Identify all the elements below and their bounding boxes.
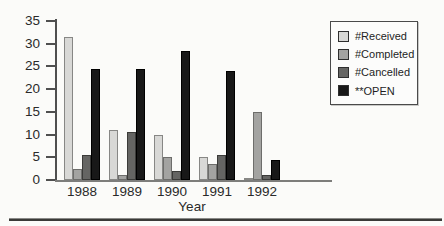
- y-tick-mark-10: [46, 134, 55, 136]
- bar-1989-2: [118, 175, 127, 180]
- y-tick-mark-20: [46, 88, 55, 90]
- x-tick-label-1992: 1992: [240, 184, 284, 199]
- legend-swatch-3: [338, 67, 349, 78]
- bar-1990-1: [154, 135, 163, 180]
- y-tick-mark-5: [46, 156, 55, 158]
- legend-swatch-4: [338, 85, 349, 96]
- y-axis-line: [55, 19, 57, 181]
- y-tick-mark-15: [46, 111, 55, 113]
- legend-swatch-1: [338, 31, 349, 42]
- bar-1990-3: [172, 171, 181, 180]
- y-tick-label-0: 0: [8, 173, 40, 187]
- bar-1991-2: [208, 164, 217, 180]
- bar-1991-1: [199, 157, 208, 180]
- legend-swatch-2: [338, 49, 349, 60]
- legend-item-1: #Received: [338, 27, 410, 45]
- bar-1988-1: [64, 37, 73, 180]
- legend-item-4: **OPEN: [338, 82, 410, 100]
- y-tick-label-10: 10: [8, 128, 40, 142]
- legend-item-3: #Cancelled: [338, 63, 410, 81]
- x-tick-label-1990: 1990: [150, 184, 194, 199]
- y-tick-label-35: 35: [8, 14, 40, 28]
- bar-1990-2: [163, 157, 172, 180]
- y-tick-mark-25: [46, 65, 55, 67]
- bar-1992-2: [253, 112, 262, 180]
- bar-1989-4: [136, 69, 145, 180]
- bar-1992-3: [262, 175, 271, 180]
- x-tick-label-1988: 1988: [60, 184, 104, 199]
- bar-1990-4: [181, 51, 190, 180]
- y-tick-mark-35: [46, 20, 55, 22]
- legend-item-2: #Completed: [338, 45, 410, 63]
- bar-1988-4: [91, 69, 100, 180]
- y-tick-label-20: 20: [8, 82, 40, 96]
- x-axis-title: Year: [162, 199, 222, 214]
- bar-1988-3: [82, 155, 91, 180]
- y-tick-label-25: 25: [8, 59, 40, 73]
- bar-1992-4: [271, 160, 280, 180]
- x-axis-line: [55, 180, 332, 182]
- legend-label-2: #Completed: [355, 48, 414, 60]
- legend-label-3: #Cancelled: [355, 66, 410, 78]
- y-tick-label-15: 15: [8, 105, 40, 119]
- bar-1988-2: [73, 169, 82, 180]
- bottom-rule-line: [9, 218, 442, 221]
- legend-label-1: #Received: [355, 30, 407, 42]
- x-tick-label-1991: 1991: [195, 184, 239, 199]
- x-tick-label-1989: 1989: [105, 184, 149, 199]
- bar-1989-3: [127, 132, 136, 180]
- legend: #Received#Completed#Cancelled**OPEN: [330, 21, 418, 105]
- y-tick-label-30: 30: [8, 37, 40, 51]
- y-tick-mark-30: [46, 43, 55, 45]
- y-tick-label-5: 5: [8, 150, 40, 164]
- bar-1989-1: [109, 130, 118, 180]
- bar-1991-4: [226, 71, 235, 180]
- bar-1991-3: [217, 155, 226, 180]
- y-tick-mark-0: [46, 179, 55, 181]
- legend-label-4: **OPEN: [355, 85, 395, 97]
- bar-1992-1: [244, 178, 253, 180]
- figure: 05101520253035 19881989199019911992 Year…: [0, 0, 444, 226]
